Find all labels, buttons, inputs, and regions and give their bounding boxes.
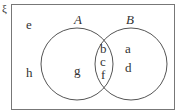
set-b-label: B	[126, 12, 134, 27]
element-f: f	[101, 67, 106, 82]
element-g: g	[74, 63, 81, 78]
venn-diagram: ξ A B e h g b c f a d	[0, 0, 177, 112]
element-h: h	[26, 65, 33, 80]
universal-set-frame	[12, 5, 175, 110]
element-d: d	[125, 60, 132, 75]
set-a-label: A	[73, 12, 82, 27]
element-a: a	[125, 41, 131, 56]
universal-set-symbol: ξ	[2, 2, 7, 15]
element-e: e	[26, 17, 32, 32]
